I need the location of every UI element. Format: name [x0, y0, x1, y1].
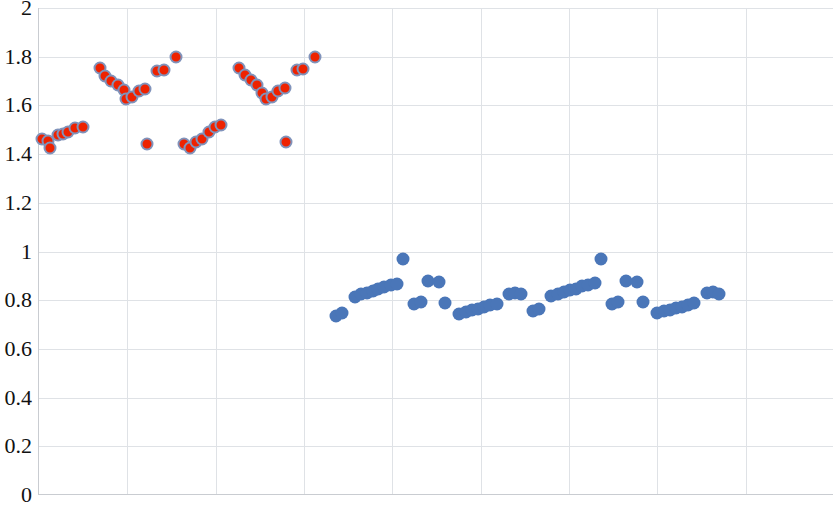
data-point-series-red	[309, 50, 322, 63]
data-point-series-blue	[713, 287, 726, 300]
gridline-horizontal	[39, 154, 833, 155]
y-axis-tick-label: 1.6	[0, 94, 32, 116]
y-axis-tick-label: 1.2	[0, 192, 32, 214]
data-point-series-red	[139, 82, 152, 95]
gridline-vertical	[746, 8, 747, 494]
data-point-series-blue	[631, 275, 644, 288]
data-point-series-blue	[594, 252, 607, 265]
y-axis-tick-label: 0	[0, 484, 32, 506]
gridline-vertical	[481, 8, 482, 494]
data-point-series-blue	[396, 252, 409, 265]
y-axis-tick-label: 1.8	[0, 46, 32, 68]
gridline-horizontal	[39, 446, 833, 447]
data-point-series-blue	[439, 296, 452, 309]
data-point-series-blue	[433, 276, 446, 289]
gridline-vertical	[569, 8, 570, 494]
data-point-series-blue	[490, 297, 503, 310]
gridline-vertical	[216, 8, 217, 494]
data-point-series-blue	[515, 288, 528, 301]
data-point-series-red	[214, 119, 227, 132]
gridline-vertical	[657, 8, 658, 494]
gridline-horizontal	[39, 252, 833, 253]
gridline-horizontal	[39, 203, 833, 204]
gridline-vertical	[392, 8, 393, 494]
y-axis-tick-label: 2	[0, 0, 32, 19]
data-point-series-red	[140, 137, 153, 150]
data-point-series-blue	[612, 296, 625, 309]
data-point-series-blue	[390, 277, 403, 290]
gridline-horizontal	[39, 349, 833, 350]
y-axis-tick-label: 0.2	[0, 435, 32, 457]
y-axis-tick-label: 1	[0, 241, 32, 263]
data-point-series-blue	[414, 295, 427, 308]
y-axis-tick-label: 0.6	[0, 338, 32, 360]
data-point-series-red	[297, 63, 310, 76]
data-point-series-blue	[588, 276, 601, 289]
y-axis-tick-label: 1.4	[0, 143, 32, 165]
data-point-series-red	[280, 136, 293, 149]
gridline-horizontal	[39, 8, 833, 9]
data-point-series-red	[169, 50, 182, 63]
data-point-series-blue	[688, 297, 701, 310]
gridline-vertical	[304, 8, 305, 494]
data-point-series-blue	[335, 307, 348, 320]
y-axis-tick-label: 0.8	[0, 289, 32, 311]
data-point-series-blue	[637, 295, 650, 308]
data-point-series-red	[278, 81, 291, 94]
scatter-chart: 00.20.40.60.811.21.41.61.82	[0, 0, 833, 510]
gridline-vertical	[127, 8, 128, 494]
gridline-horizontal	[39, 105, 833, 106]
gridline-horizontal	[39, 398, 833, 399]
data-point-series-red	[44, 142, 57, 155]
gridline-horizontal	[39, 300, 833, 301]
data-point-series-blue	[532, 303, 545, 316]
plot-area	[38, 8, 833, 495]
y-axis-tick-label: 0.4	[0, 387, 32, 409]
data-point-series-red	[77, 120, 90, 133]
gridline-horizontal	[39, 57, 833, 58]
data-point-series-red	[157, 64, 170, 77]
